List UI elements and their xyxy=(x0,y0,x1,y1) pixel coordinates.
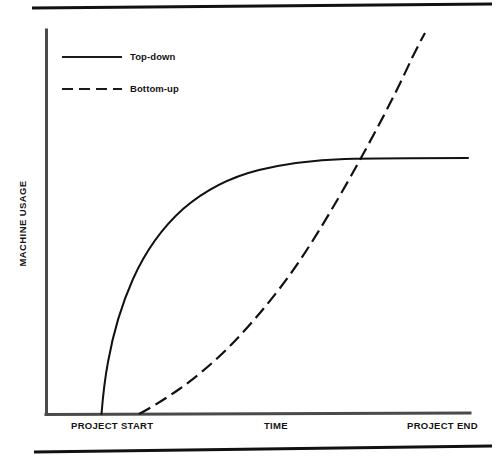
legend-label-bottom-up: Bottom-up xyxy=(130,83,179,94)
chart-canvas xyxy=(0,0,496,463)
series-line-bottom-up xyxy=(139,33,425,414)
y-axis-title: MACHINE USAGE xyxy=(17,164,28,284)
top-rule xyxy=(32,4,492,8)
series-line-top-down xyxy=(102,158,469,414)
legend-label-top-down: Top-down xyxy=(130,51,175,62)
x-axis xyxy=(46,413,470,415)
bottom-rule xyxy=(34,446,492,452)
x-tick-label-project-start: PROJECT START xyxy=(71,420,153,431)
x-tick-label-project-end: PROJECT END xyxy=(407,420,478,431)
chart-figure: MACHINE USAGE Top-down Bottom-up PROJECT… xyxy=(0,0,496,463)
x-axis-title-time: TIME xyxy=(264,420,288,431)
